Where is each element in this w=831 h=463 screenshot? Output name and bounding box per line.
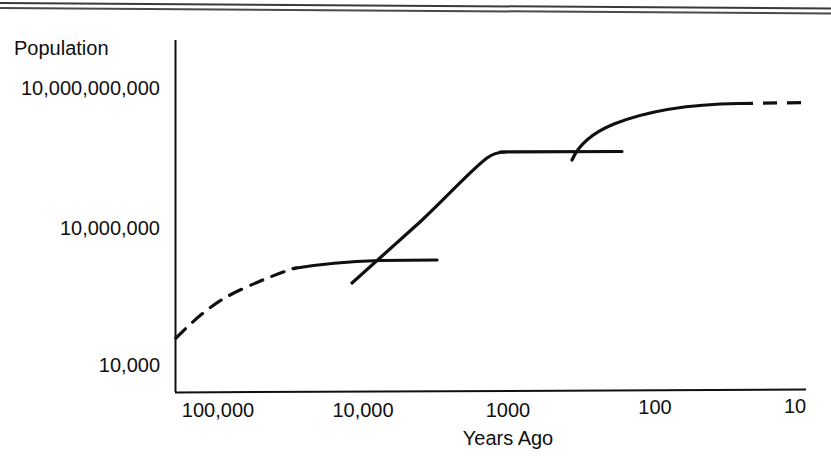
y-tick-label-10000000000: 10,000,000,000: [0, 78, 160, 98]
x-axis-title: Years Ago: [463, 428, 553, 448]
series-agricultural-plateau: [500, 152, 622, 153]
series-pre-agricultural-dashed: [176, 268, 296, 338]
x-tick-label-10: 10: [784, 396, 806, 416]
series-projection-dashed: [739, 103, 806, 104]
series-hunter-gatherer-ceiling: [293, 260, 437, 269]
x-axis-line: [175, 390, 806, 393]
x-tick-label-1000: 1000: [486, 400, 531, 420]
x-tick-label-100: 100: [638, 397, 671, 417]
chart-figure: Population 10,000,000,000 10,000,000 10,…: [0, 0, 831, 463]
x-tick-label-10000: 10,000: [332, 400, 393, 420]
y-tick-label-10000: 10,000: [0, 355, 160, 375]
x-tick-label-100000: 100,000: [182, 400, 254, 420]
y-tick-label-10000000: 10,000,000: [0, 218, 160, 238]
series-agricultural-rise: [352, 152, 505, 283]
y-axis-title: Population: [14, 38, 109, 58]
